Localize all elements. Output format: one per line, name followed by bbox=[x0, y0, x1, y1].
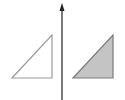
reflection-diagram bbox=[0, 0, 125, 100]
arrow-up-icon bbox=[60, 3, 65, 11]
original-triangle bbox=[12, 35, 52, 78]
reflected-triangle bbox=[73, 35, 113, 78]
diagram-canvas bbox=[0, 0, 125, 100]
